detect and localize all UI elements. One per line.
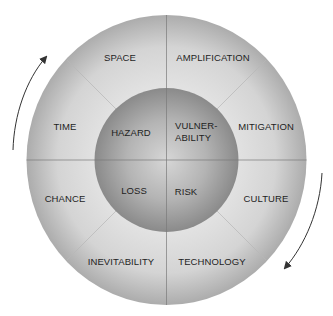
segment-chance: CHANCE bbox=[45, 193, 86, 205]
segment-amplification: AMPLIFICATION bbox=[176, 52, 249, 64]
quadrant-vulnerability: VULNER- ABILITY bbox=[175, 120, 217, 144]
segment-mitigation: MITIGATION bbox=[238, 121, 294, 133]
segment-space: SPACE bbox=[104, 52, 136, 64]
segment-technology: TECHNOLOGY bbox=[178, 256, 246, 268]
quadrant-risk: RISK bbox=[175, 186, 198, 198]
quadrant-hazard: HAZARD bbox=[111, 127, 151, 139]
segment-time: TIME bbox=[53, 121, 76, 133]
quadrant-loss: LOSS bbox=[121, 185, 147, 197]
risk-cycle-diagram: SPACE AMPLIFICATION MITIGATION CULTURE T… bbox=[0, 0, 333, 316]
segment-inevitability: INEVITABILITY bbox=[88, 256, 155, 268]
diagram-graphic bbox=[0, 0, 333, 316]
segment-culture: CULTURE bbox=[244, 193, 289, 205]
